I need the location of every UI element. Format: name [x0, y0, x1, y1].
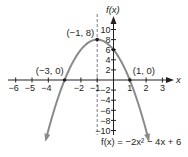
x-tick-label: −4: [41, 83, 51, 93]
equation-label: f(x) = −2x² − 4x + 6: [101, 136, 181, 147]
y-tick-label: 10: [100, 25, 110, 35]
x-tick-label: −1: [90, 83, 100, 93]
data-point: [128, 78, 132, 82]
x-tick-label: −6: [9, 83, 19, 93]
y-axis-label: f(x): [106, 4, 120, 15]
y-tick-label: 2: [105, 65, 110, 75]
y-tick-label: −2: [100, 85, 110, 95]
y-tick-label: −8: [100, 116, 110, 126]
x-tick-label: 3: [160, 83, 165, 93]
point-label: (−1, 8): [66, 27, 94, 38]
parabola-chart: −6−5−4−2−1123108642−2−4−6−8−10 (−3, 0)(−…: [0, 0, 188, 157]
y-tick-label: −4: [100, 95, 110, 105]
x-tick-label: 2: [144, 83, 149, 93]
point-label: (1, 0): [133, 65, 155, 76]
data-point: [63, 78, 67, 82]
x-tick-label: −2: [74, 83, 84, 93]
x-axis-label: x: [175, 74, 182, 85]
x-axis-arrow-icon: [166, 77, 174, 83]
data-point: [112, 48, 116, 52]
point-label: (−3, 0): [36, 65, 64, 76]
x-tick-label: −5: [25, 83, 35, 93]
y-axis-arrow-icon: [111, 16, 117, 24]
y-tick-label: −6: [100, 106, 110, 116]
data-point: [95, 38, 99, 42]
labeled-points: (−3, 0)(−1, 8)(1, 0): [36, 27, 155, 82]
y-tick-label: −10: [95, 126, 110, 136]
y-tick-label: 4: [105, 55, 110, 65]
curve-left-arrow-icon: [44, 133, 50, 141]
